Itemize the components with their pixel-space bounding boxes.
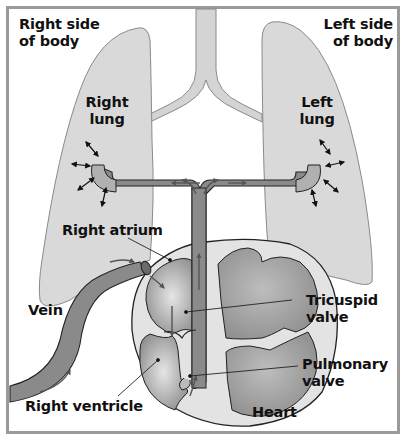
left-side-of-body-label: Left side of body xyxy=(318,16,393,50)
right-ventricle-label: Right ventricle xyxy=(25,398,143,415)
pulmonary-valve-label: Pulmonary valve xyxy=(302,356,388,390)
heart-label: Heart xyxy=(252,404,297,421)
left-lung-label: Left lung xyxy=(292,94,342,128)
tricuspid-valve-label: Tricuspid valve xyxy=(306,292,378,326)
right-side-of-body-label: Right side of body xyxy=(19,16,100,50)
pulmonary-circulation-diagram: Right side of body Left side of body Rig… xyxy=(0,0,412,444)
right-lung-label: Right lung xyxy=(82,94,132,128)
vein-label: Vein xyxy=(28,302,63,319)
right-atrium-label: Right atrium xyxy=(62,222,163,239)
trachea xyxy=(150,9,262,122)
